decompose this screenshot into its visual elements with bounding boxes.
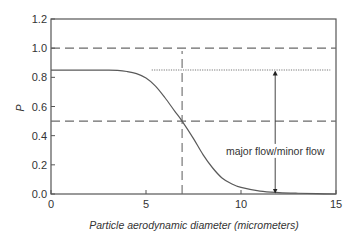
annotations: major flow/minor flow: [226, 73, 325, 191]
data-series: [51, 70, 336, 194]
x-tick-label: 5: [143, 198, 149, 210]
y-tick-label: 0.2: [32, 159, 47, 171]
y-axis-title: P: [14, 104, 26, 111]
chart: major flow/minor flow 051015 0.00.20.40.…: [0, 0, 358, 235]
y-tick-label: 0.8: [32, 71, 47, 83]
annotation-label: major flow/minor flow: [226, 145, 325, 157]
y-tick-label: 1.2: [32, 13, 47, 25]
plot-area-border: [51, 19, 336, 194]
plot-frame: [51, 19, 336, 194]
y-tick-label: 0.0: [32, 188, 47, 200]
y-tick-label: 0.4: [32, 130, 47, 142]
x-tick-label: 0: [48, 198, 54, 210]
y-tick-label: 1.0: [32, 42, 47, 54]
y-tick-label: 0.6: [32, 101, 47, 113]
x-axis-title: Particle aerodynamic diameter (micromete…: [89, 219, 299, 231]
x-tick-label: 10: [235, 198, 247, 210]
p-curve: [51, 70, 336, 194]
x-tick-label: 15: [330, 198, 342, 210]
